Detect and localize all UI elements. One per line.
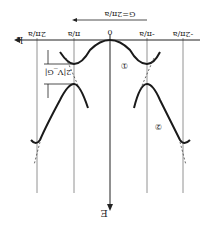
e-axis-label: E xyxy=(100,208,107,219)
g-vector-label: G=2π/a xyxy=(104,10,135,19)
k-axis-label: k xyxy=(16,35,23,46)
gap-label: 2|V_G| xyxy=(45,68,72,77)
tick-minus-pi-a: -π/a xyxy=(139,30,155,39)
band-1-label: ① xyxy=(121,61,128,70)
tick-zero: 0 xyxy=(107,28,112,37)
tick-minus-2pi-a: -2π/a xyxy=(173,30,194,39)
band-2-left-curve xyxy=(31,84,88,143)
tick-2pi-a: 2π/a xyxy=(28,30,46,39)
band-2-label: ② xyxy=(155,122,162,131)
band-2-right-curve xyxy=(134,84,190,143)
e-axis xyxy=(107,34,113,211)
band-structure-diagram: k E 2π/a π/a 0 -π/a -2π/a G=2π/a 2|V_G| … xyxy=(0,0,207,228)
tick-pi-a: π/a xyxy=(67,30,80,39)
